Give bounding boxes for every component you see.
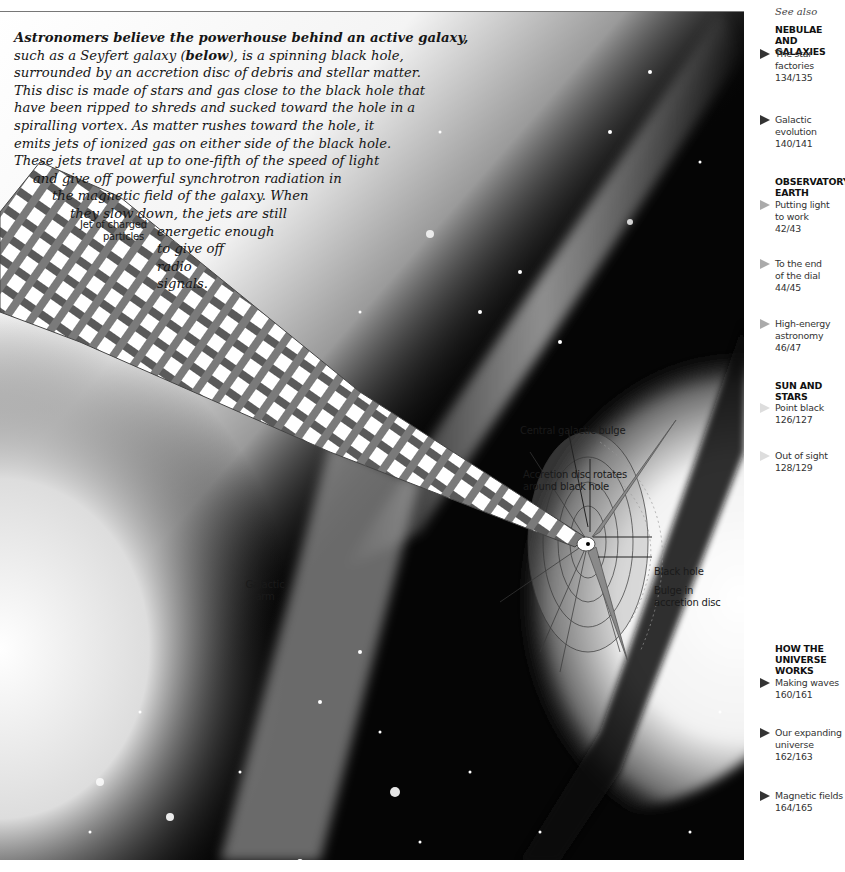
ref-line: to work [775,211,829,223]
ref-page: 44/45 [775,282,822,294]
label-central-galactic-bulge: Central galactic bulge [520,425,625,437]
ref-page: 42/43 [775,223,829,235]
ref-magnetic-fields[interactable]: Magnetic fields 164/165 [775,790,843,814]
label-bulge-line-2: accretion disc [654,597,721,609]
ref-our-expanding-universe[interactable]: Our expanding universe 162/163 [775,727,842,763]
ref-galactic-evolution[interactable]: Galactic evolution 140/141 [775,114,817,150]
see-also-heading: See also [775,6,817,17]
intro-lead-bold: Astronomers believe the powerhouse behin… [14,30,468,45]
ref-line: Point black [775,402,824,414]
section-title-line: EARTH [775,187,845,198]
section-title-line: WORKS [775,665,826,676]
label-accretion-line-1: Accretion disc rotates [523,469,627,481]
ref-line: Our expanding [775,727,842,739]
ref-page: 140/141 [775,138,817,150]
ref-line: High-energy [775,318,830,330]
ref-high-energy-astronomy[interactable]: High-energy astronomy 46/47 [775,318,830,354]
intro-line-1-pre: such as a Seyfert galaxy ( [14,48,186,63]
arrow-right-icon [760,728,770,738]
intro-line-1-bold: below [186,48,229,63]
arrow-right-icon [760,115,770,125]
label-bulge-line-1: Bulge in [654,585,721,597]
section-title-line: STARS [775,391,822,402]
label-arm-line-2: arm [240,591,290,603]
ref-line: Galactic [775,114,817,126]
label-bulge-in-accretion-disc: Bulge in accretion disc [654,585,721,609]
intro-line: signals. [14,275,434,293]
intro-line: the magnetic field of the galaxy. When [14,187,434,205]
intro-line: surrounded by an accretion disc of debri… [14,64,434,82]
label-arm-line-1: Galactic [240,579,290,591]
ref-point-black[interactable]: Point black 126/127 [775,402,824,426]
section-observatory-earth: OBSERVATORY EARTH [775,176,845,198]
intro-lead: Astronomers believe the powerhouse behin… [14,29,434,47]
arrow-right-icon [760,403,770,413]
ref-line: astronomy [775,330,830,342]
section-title-line: UNIVERSE [775,654,826,665]
ref-line: Putting light [775,199,829,211]
ref-line: To the end [775,258,822,270]
label-jet-line-1: Jet of charged [80,219,144,231]
intro-line: radio [14,258,434,276]
label-galactic-arm: Galactic arm [240,579,290,603]
arrow-right-icon [760,49,770,59]
arrow-right-icon [760,319,770,329]
arrow-right-icon [760,791,770,801]
intro-line: have been ripped to shreds and sucked to… [14,99,434,117]
label-black-hole: Black hole [654,566,704,578]
ref-the-star-factories[interactable]: The star factories 134/135 [775,48,814,84]
intro-line: These jets travel at up to one-fifth of … [14,152,434,170]
section-title-line: OBSERVATORY [775,176,845,187]
section-title-line: HOW THE [775,643,826,654]
ref-page: 126/127 [775,414,824,426]
label-accretion-disc-rotates: Accretion disc rotates around black hole [523,469,627,493]
intro-line-1: such as a Seyfert galaxy (below), is a s… [14,47,434,65]
intro-line: and give off powerful synchrotron radiat… [14,170,434,188]
section-title-line: SUN AND [775,380,822,391]
intro-line: This disc is made of stars and gas close… [14,82,434,100]
ref-page: 128/129 [775,462,828,474]
ref-page: 160/161 [775,689,839,701]
intro-line: energetic enough [14,223,434,241]
ref-line: universe [775,739,842,751]
section-title-line: NEBULAE AND [775,24,845,46]
section-how-the-universe-works: HOW THE UNIVERSE WORKS [775,643,826,676]
label-jet-line-2: particles [80,231,144,243]
ref-line: of the dial [775,270,822,282]
arrow-right-icon [760,678,770,688]
ref-to-the-end-of-the-dial[interactable]: To the end of the dial 44/45 [775,258,822,294]
arrow-right-icon [760,451,770,461]
intro-line: spiralling vortex. As matter rushes towa… [14,117,434,135]
intro-line: emits jets of ionized gas on either side… [14,135,434,153]
ref-putting-light-to-work[interactable]: Putting light to work 42/43 [775,199,829,235]
arrow-right-icon [760,259,770,269]
ref-page: 162/163 [775,751,842,763]
ref-line: Out of sight [775,450,828,462]
ref-line: Magnetic fields [775,790,843,802]
intro-line: to give off [14,240,434,258]
intro-line-1-post: ), is a spinning black hole, [228,48,403,63]
label-jet-of-charged-particles: Jet of charged particles [80,219,144,243]
see-also-sidebar: See also NEBULAE AND GALAXIES The star f… [758,0,845,872]
ref-page: 164/165 [775,802,843,814]
ref-line: Making waves [775,677,839,689]
galaxy-illustration: Astronomers believe the powerhouse behin… [0,11,744,860]
arrow-right-icon [760,200,770,210]
ref-out-of-sight[interactable]: Out of sight 128/129 [775,450,828,474]
ref-line: factories [775,60,814,72]
label-accretion-line-2: around black hole [523,481,627,493]
intro-line: they slow down, the jets are still [14,205,434,223]
ref-making-waves[interactable]: Making waves 160/161 [775,677,839,701]
section-sun-and-stars: SUN AND STARS [775,380,822,402]
ref-page: 46/47 [775,342,830,354]
ref-line: The star [775,48,814,60]
intro-paragraph: Astronomers believe the powerhouse behin… [14,29,434,293]
ref-line: evolution [775,126,817,138]
ref-page: 134/135 [775,72,814,84]
